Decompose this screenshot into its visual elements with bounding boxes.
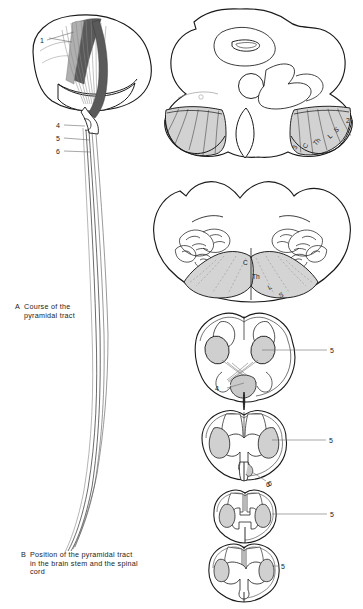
lumbosacral-lateral-tract-left (214, 559, 229, 581)
caption-b-line2: in the brain stem and the spinal (30, 559, 138, 568)
medulla-somatotopy-Th: Th (252, 273, 260, 280)
aqueduct-inner (236, 43, 256, 49)
thoracic-lateral-tract-right (255, 504, 271, 527)
lumbosacral-leader-labels: 5 (281, 563, 285, 570)
decussation-label-4: 4 (215, 385, 219, 392)
decussation-label-5: 5 (330, 347, 334, 354)
panel-a-brain: 1 4 5 6 (33, 15, 151, 552)
caption-b-line3: cord (30, 567, 45, 576)
section-decussation: 5 4 (195, 313, 334, 410)
anatomical-plate: 1 4 5 6 (0, 0, 363, 609)
caption-a-letter: A (15, 303, 24, 312)
cord-outer-edge (65, 128, 93, 552)
section-thoracic: 5 6 (214, 481, 334, 543)
somatotopy-2: 2 (346, 117, 350, 124)
caption-b-letter: B (21, 551, 30, 560)
crus-cerebri-left (165, 106, 226, 156)
anterior-median-fissure (243, 392, 245, 410)
leader-label-4: 4 (56, 122, 60, 129)
caption-b: BPosition of the pyramidal tract in the … (21, 551, 138, 577)
lumbosacral-lateral-tract-right (259, 559, 274, 581)
thoracic-label-5: 5 (330, 511, 334, 518)
leader-label-5: 5 (56, 135, 60, 142)
spinal-cord-tract-lines-outer (73, 132, 108, 549)
cervical-label-5: 5 (329, 437, 333, 444)
section-midbrain: 3 C Th L S 2 (165, 9, 353, 158)
section-lumbosacral: 5 (209, 544, 285, 602)
caption-a-line2: pyramidal tract (24, 311, 75, 320)
leader-label-1: 1 (40, 37, 44, 44)
leader-label-6: 6 (56, 148, 60, 155)
thoracic-lateral-tract-left (219, 504, 235, 527)
anterior-corticospinal-tract (230, 375, 256, 398)
thoracic-label-6-upper: 6 (266, 481, 270, 488)
crus-cerebri-right (290, 106, 352, 156)
lumbosacral-label-5: 5 (281, 563, 285, 570)
medulla-somatotopy-C: C (243, 259, 248, 266)
caption-a: ACourse of the pyramidal tract (15, 303, 75, 320)
section-cervical: 5 6 (202, 411, 333, 487)
section-medulla: C Th L S (154, 182, 351, 302)
